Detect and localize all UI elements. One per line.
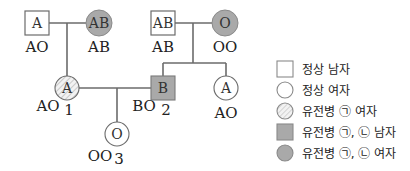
legend-label: 유전병 ㉠, ㉡ 여자	[302, 144, 396, 161]
gen1-right-female: O OO	[212, 10, 238, 56]
genotype-label: AO	[213, 104, 237, 122]
genotype-label: AO	[35, 97, 59, 115]
genotype-label: AB	[87, 38, 110, 56]
legend-label: 유전병 ㉠ 여자	[302, 102, 377, 119]
genotype-label: AO	[24, 38, 48, 56]
pedigree-chart: A AO AB AB AB AB O OO A AO 1 B BO 2 A AO	[0, 0, 270, 171]
person-number: 1	[64, 101, 74, 119]
blood-type-symbol: A	[31, 15, 43, 31]
blood-type-symbol: O	[219, 15, 230, 31]
legend-item-disease-a-b-female: 유전병 ㉠, ㉡ 여자	[275, 142, 396, 163]
genotype-label: OO	[88, 147, 113, 165]
genotype-label: OO	[213, 38, 238, 56]
blood-type-symbol: AB	[88, 15, 109, 31]
legend-label: 정상 남자	[302, 60, 350, 77]
person-3: O OO 3	[88, 122, 129, 168]
genotype-label: AB	[151, 38, 174, 56]
shaded-male-square-icon	[275, 122, 295, 142]
legend-label: 유전병 ㉠, ㉡ 남자	[302, 123, 396, 140]
gen1-left-male: A AO	[24, 11, 49, 56]
normal-female-circle-icon	[275, 80, 295, 100]
blood-type-symbol: O	[111, 126, 122, 142]
legend-item-disease-a-b-male: 유전병 ㉠, ㉡ 남자	[275, 121, 396, 142]
legend-item-disease-a-female: 유전병 ㉠ 여자	[275, 100, 396, 121]
legend: 정상 남자 정상 여자 유전병 ㉠ 여자 유전병 ㉠, ㉡ 남자 유전병 ㉠, …	[275, 58, 396, 163]
hatched-female-circle-icon	[275, 101, 295, 121]
legend-label: 정상 여자	[302, 81, 350, 98]
person-2: B BO 2	[132, 76, 175, 119]
legend-item-normal-female: 정상 여자	[275, 79, 396, 100]
blood-type-symbol: AB	[152, 15, 173, 31]
legend-item-normal-male: 정상 남자	[275, 58, 396, 79]
gen1-right-male: AB AB	[151, 11, 175, 56]
sibling-of-person-2: A AO	[213, 76, 238, 122]
blood-type-symbol: A	[220, 80, 232, 96]
person-number: 3	[114, 150, 124, 168]
genotype-label: BO	[132, 97, 156, 115]
blood-type-symbol: A	[61, 80, 73, 96]
blood-type-symbol: B	[158, 80, 168, 96]
person-number: 2	[161, 101, 171, 119]
person-1: A AO 1	[35, 76, 79, 119]
shaded-female-circle-icon	[275, 143, 295, 163]
gen1-left-female: AB AB	[86, 10, 112, 56]
normal-male-square-icon	[275, 59, 295, 79]
